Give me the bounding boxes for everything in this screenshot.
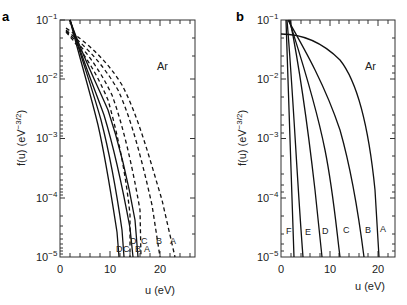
svg-text:10−5: 10−5 <box>257 249 279 263</box>
svg-text:D: D <box>322 226 329 236</box>
svg-text:10−4: 10−4 <box>36 190 58 204</box>
svg-text:10: 10 <box>324 263 336 275</box>
svg-text:A: A <box>380 224 386 234</box>
y-ticks-b <box>281 38 395 251</box>
curve-labels-a: D C D B C A B A <box>116 236 176 254</box>
svg-text:0: 0 <box>57 263 63 275</box>
y-axis-label-b: f(u) (eV−3/2) <box>235 110 248 166</box>
svg-text:10−1: 10−1 <box>257 12 279 26</box>
x-axis-label-a: u (eV) <box>145 284 175 296</box>
svg-text:0: 0 <box>278 263 284 275</box>
y-axis-label-a: f(u) (eV−3/2) <box>14 110 27 166</box>
figure: a 10−1 10−2 10−3 10−4 10−5 <box>0 0 407 305</box>
svg-text:C: C <box>343 225 350 235</box>
svg-text:C: C <box>123 244 130 254</box>
svg-text:A: A <box>170 236 176 246</box>
plot-frame-a <box>60 20 195 257</box>
svg-text:20: 20 <box>372 263 384 275</box>
svg-text:A: A <box>144 244 150 254</box>
svg-text:E: E <box>305 227 311 237</box>
x-ticks-b <box>291 20 388 257</box>
panel-b: b 10−1 10−2 10−3 10−4 10−5 <box>235 9 395 292</box>
panel-b-letter: b <box>236 9 244 24</box>
x-tick-labels-b: 0 10 20 <box>278 263 384 275</box>
svg-text:D: D <box>116 244 123 254</box>
svg-text:10−5: 10−5 <box>36 249 58 263</box>
svg-text:B: B <box>156 236 162 246</box>
x-tick-labels-a: 0 10 20 <box>57 263 166 275</box>
panel-a-letter: a <box>2 9 10 24</box>
svg-text:10−4: 10−4 <box>257 190 279 204</box>
svg-text:B: B <box>365 225 371 235</box>
svg-text:10−3: 10−3 <box>257 130 279 144</box>
svg-text:10: 10 <box>104 263 116 275</box>
x-axis-label-b: u (eV) <box>355 280 385 292</box>
svg-text:F: F <box>286 226 292 236</box>
y-tick-labels-a: 10−1 10−2 10−3 10−4 10−5 <box>36 12 58 263</box>
svg-text:10−2: 10−2 <box>36 71 58 85</box>
plot-frame-b <box>281 20 395 257</box>
svg-text:10−3: 10−3 <box>36 130 58 144</box>
svg-text:20: 20 <box>154 263 166 275</box>
gas-annotation-a: Ar <box>157 60 168 72</box>
svg-text:10−2: 10−2 <box>257 71 279 85</box>
curves-b <box>281 20 379 257</box>
svg-text:10−1: 10−1 <box>36 12 58 26</box>
gas-annotation-b: Ar <box>365 60 376 72</box>
panel-a: a 10−1 10−2 10−3 10−4 10−5 <box>2 9 195 296</box>
y-tick-labels-b: 10−1 10−2 10−3 10−4 10−5 <box>257 12 279 263</box>
solid-curves-a <box>70 20 138 257</box>
